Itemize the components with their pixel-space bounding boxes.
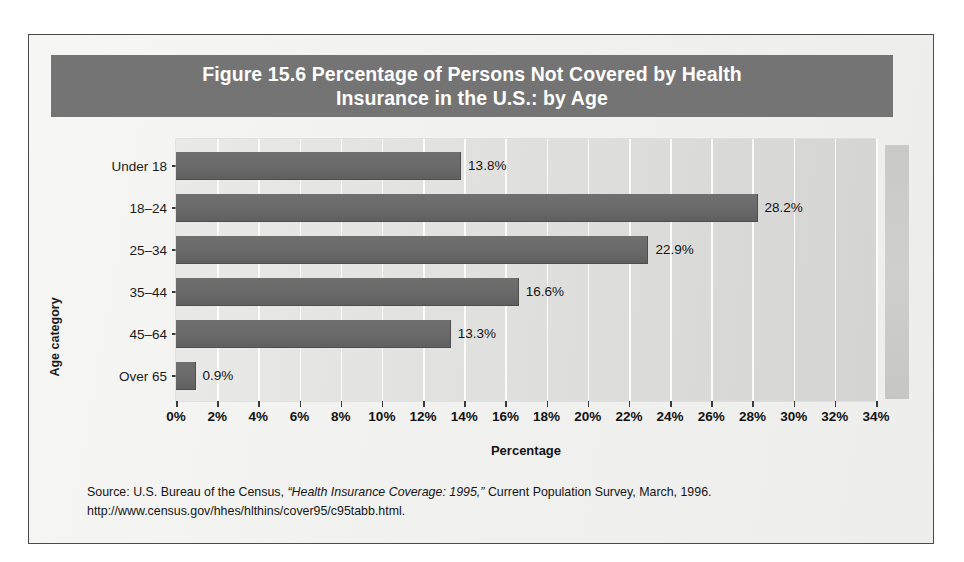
bar: [176, 194, 758, 222]
bar: [176, 278, 519, 306]
source-note: Source: U.S. Bureau of the Census, “Heal…: [87, 483, 887, 521]
gridline: [794, 139, 796, 401]
x-axis-tick: [629, 401, 631, 407]
bar-value-label: 13.3%: [458, 320, 496, 347]
source-line-1: Source: U.S. Bureau of the Census, “Heal…: [87, 485, 712, 499]
x-axis-tick: [258, 401, 260, 407]
bar-value-label: 0.9%: [203, 362, 234, 389]
figure-title-banner: Figure 15.6 Percentage of Persons Not Co…: [51, 55, 893, 117]
chart-region: Age category Under 1818–2425–3435–4445–6…: [29, 131, 935, 471]
gridline: [547, 139, 549, 401]
x-axis-tick: [341, 401, 343, 407]
y-axis-label: Over 65: [119, 355, 179, 397]
x-axis-tick: [670, 401, 672, 407]
x-axis-tick: [835, 401, 837, 407]
x-axis: 0%2%4%6%8%10%12%14%16%18%20%22%24%26%28%…: [176, 401, 876, 435]
y-axis-label-text: 25–34: [129, 243, 167, 258]
y-axis-label: 35–44: [129, 271, 179, 313]
bar: [176, 152, 461, 180]
x-axis-tick: [217, 401, 219, 407]
x-axis-tick: [752, 401, 754, 407]
x-axis-tick-label: 26%: [698, 409, 725, 424]
x-axis-tick-label: 12%: [410, 409, 437, 424]
x-axis-tick: [711, 401, 713, 407]
y-axis-label-text: 35–44: [129, 285, 167, 300]
x-axis-tick-label: 2%: [207, 409, 227, 424]
x-axis-tick: [794, 401, 796, 407]
x-axis-tick: [176, 401, 178, 407]
y-axis-label-text: Over 65: [119, 369, 167, 384]
y-axis-category-labels: Under 1818–2425–3435–4445–64Over 65: [75, 145, 179, 398]
bar: [176, 236, 648, 264]
bar-value-label: 22.9%: [655, 236, 693, 263]
x-axis-tick-label: 28%: [739, 409, 766, 424]
bar: [176, 320, 451, 348]
figure-title-line-1: Figure 15.6 Percentage of Persons Not Co…: [202, 63, 742, 85]
x-axis-tick: [423, 401, 425, 407]
x-axis-tick-label: 16%: [492, 409, 519, 424]
x-axis-tick: [505, 401, 507, 407]
gridline: [588, 139, 590, 401]
y-axis-label: 45–64: [129, 313, 179, 355]
x-axis-tick-label: 18%: [533, 409, 560, 424]
x-axis-tick-label: 4%: [249, 409, 269, 424]
y-axis-label: Under 18: [111, 145, 179, 187]
gridline: [629, 139, 631, 401]
y-axis-label-text: 45–64: [129, 327, 167, 342]
gridline: [752, 139, 754, 401]
gridline: [876, 139, 878, 401]
x-axis-tick-label: 0%: [166, 409, 186, 424]
figure-frame: Figure 15.6 Percentage of Persons Not Co…: [28, 34, 934, 544]
x-axis-tick-label: 34%: [862, 409, 889, 424]
x-axis-tick-label: 6%: [290, 409, 310, 424]
x-axis-tick-label: 10%: [368, 409, 395, 424]
bar-value-label: 13.8%: [468, 152, 506, 179]
y-axis-label: 18–24: [129, 187, 179, 229]
gridline: [835, 139, 837, 401]
y-axis-label: 25–34: [129, 229, 179, 271]
bar-value-label: 16.6%: [526, 278, 564, 305]
figure-title: Figure 15.6 Percentage of Persons Not Co…: [192, 62, 752, 110]
x-axis-tick-label: 20%: [574, 409, 601, 424]
y-axis-title: Age category: [43, 227, 67, 447]
panel-side-band: [885, 145, 909, 399]
gridline: [464, 139, 466, 401]
x-axis-tick: [382, 401, 384, 407]
x-axis-tick: [300, 401, 302, 407]
bar-value-label: 28.2%: [765, 194, 803, 221]
x-axis-tick: [464, 401, 466, 407]
x-axis-tick-label: 24%: [657, 409, 684, 424]
x-axis-tick: [588, 401, 590, 407]
source-url: http://www.census.gov/hhes/hlthins/cover…: [87, 502, 887, 521]
y-axis-label-text: 18–24: [129, 201, 167, 216]
figure-title-line-2: Insurance in the U.S.: by Age: [336, 87, 608, 109]
source-title-italic: “Health Insurance Coverage: 1995,”: [287, 485, 484, 499]
x-axis-tick-label: 14%: [451, 409, 478, 424]
gridline: [711, 139, 713, 401]
x-axis-tick-label: 8%: [331, 409, 351, 424]
x-axis-tick: [547, 401, 549, 407]
x-axis-tick-label: 22%: [615, 409, 642, 424]
source-prefix: Source: U.S. Bureau of the Census,: [87, 485, 287, 499]
gridline: [670, 139, 672, 401]
x-axis-tick-label: 32%: [821, 409, 848, 424]
y-axis-title-label: Age category: [48, 297, 62, 376]
x-axis-title: Percentage: [176, 443, 876, 458]
x-axis-tick: [876, 401, 878, 407]
x-axis-tick-label: 30%: [780, 409, 807, 424]
source-suffix: Current Population Survey, March, 1996.: [484, 485, 711, 499]
bar: [176, 362, 196, 390]
y-axis-label-text: Under 18: [111, 159, 167, 174]
